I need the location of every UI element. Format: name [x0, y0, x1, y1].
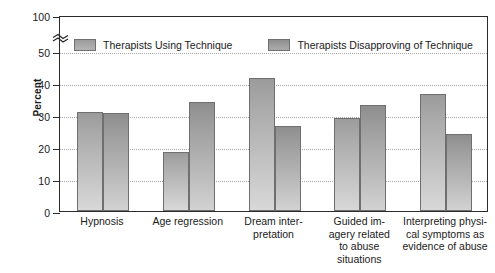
x-axis-tick-label-line: Interpreting physi- [395, 215, 495, 228]
x-axis-labels: HypnosisAge regressionDream inter-pretat… [59, 215, 488, 273]
x-axis-tick-label-line: situations [309, 253, 409, 266]
y-axis-tick-label: 40 [10, 79, 50, 91]
bar [334, 118, 360, 211]
bar [446, 134, 472, 211]
bar [249, 78, 275, 211]
bar [275, 126, 301, 211]
bar [77, 112, 103, 211]
bar [189, 102, 215, 211]
bar [360, 105, 386, 211]
y-axis-tick-label: 100 [10, 11, 50, 23]
y-axis-tick-label: 10 [10, 175, 50, 187]
bar [103, 113, 129, 211]
y-axis-tick [53, 149, 60, 150]
y-axis-tick [53, 181, 60, 182]
y-axis-tick [53, 213, 60, 214]
bar-chart: Percent 01020304050100 Therapists Using … [0, 0, 495, 273]
y-axis-tick [53, 53, 60, 54]
bar [420, 94, 446, 211]
y-axis-tick-label: 0 [10, 207, 50, 219]
y-axis-tick [53, 85, 60, 86]
y-axis-tick-label: 30 [10, 111, 50, 123]
bars-layer [60, 17, 487, 211]
x-axis-tick-label-line: evidence of abuse [395, 240, 495, 253]
bar [163, 152, 189, 211]
x-axis-tick-label-line: cal symptoms as [395, 228, 495, 241]
y-axis-tick-label: 50 [10, 47, 50, 59]
plot-area: 01020304050100 Therapists Using Techniqu… [59, 16, 488, 212]
y-axis-tick-label: 20 [10, 143, 50, 155]
y-axis-tick [53, 17, 60, 18]
x-axis-tick-label: Interpreting physi-cal symptoms aseviden… [395, 215, 495, 253]
y-axis-tick [53, 117, 60, 118]
